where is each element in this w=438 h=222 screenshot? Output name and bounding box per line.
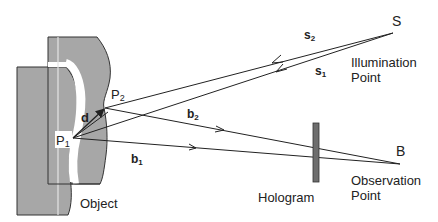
label-b: B: [396, 143, 405, 159]
ray-s1: [73, 33, 393, 138]
label-d: d: [81, 110, 89, 125]
label-b1: b1: [131, 152, 143, 167]
arrow-s2: [272, 55, 283, 63]
hologram-plate: [313, 123, 319, 182]
caption-illumination-2: Point: [351, 70, 381, 85]
label-hologram: Hologram: [258, 190, 314, 205]
label-s2: s2: [304, 28, 316, 43]
ray-b2: [105, 108, 400, 164]
caption-illumination-1: Illumination: [351, 55, 417, 70]
label-s: S: [392, 13, 401, 29]
holography-diagram: P1 P2 d s2 s1 b2 b1 S Illumination Point…: [0, 0, 438, 222]
label-b2: b2: [187, 107, 199, 122]
caption-observation-2: Point: [351, 188, 381, 203]
caption-observation-1: Observation: [351, 173, 421, 188]
ray-s2: [105, 33, 393, 108]
label-object: Object: [80, 196, 118, 211]
ray-b1: [73, 138, 400, 164]
label-s1: s1: [315, 64, 327, 79]
label-p2: P2: [111, 87, 125, 103]
